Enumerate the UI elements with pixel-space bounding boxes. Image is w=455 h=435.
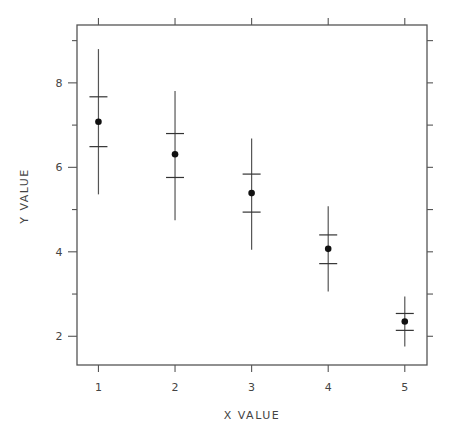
x-axis-label: X VALUE: [224, 409, 280, 422]
x-tick-label: 1: [95, 381, 102, 394]
data-point-marker: [248, 190, 255, 197]
data-point-group: [319, 206, 337, 291]
data-point-group: [166, 91, 184, 220]
data-point-marker: [172, 151, 179, 158]
y-axis-ticks: 2468: [56, 41, 434, 344]
data-point-group: [396, 297, 414, 347]
data-point-group: [243, 139, 261, 250]
error-bar-chart: 12345 2468 X VALUE Y VALUE: [0, 0, 455, 435]
data-points: [89, 49, 413, 346]
y-tick-label: 2: [56, 330, 63, 343]
y-tick-label: 6: [56, 161, 63, 174]
y-axis-label: Y VALUE: [18, 168, 31, 225]
x-tick-label: 2: [172, 381, 179, 394]
data-point-group: [89, 49, 107, 194]
data-point-marker: [95, 118, 102, 125]
y-tick-label: 8: [56, 77, 63, 90]
data-point-marker: [325, 246, 332, 253]
x-tick-label: 4: [325, 381, 332, 394]
data-point-marker: [401, 318, 408, 325]
y-tick-label: 4: [56, 246, 63, 259]
x-tick-label: 3: [248, 381, 255, 394]
x-tick-label: 5: [401, 381, 408, 394]
